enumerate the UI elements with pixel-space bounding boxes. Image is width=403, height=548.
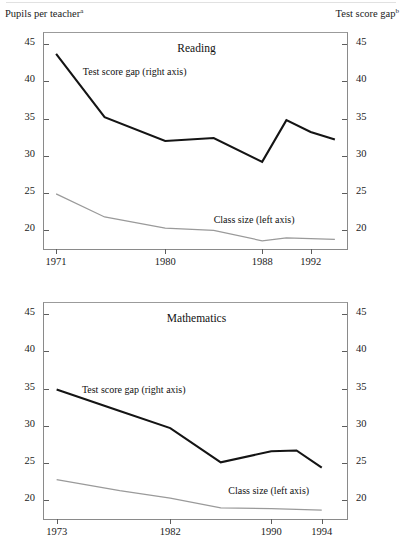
x-axis-tick-label: 1980 xyxy=(155,256,176,267)
figure-page: Pupils per teachera Test score gapb Read… xyxy=(0,0,403,548)
series-label-test-score-gap: Test score gap (right axis) xyxy=(82,384,186,395)
page-top-rule xyxy=(6,2,396,3)
x-axis-tick-label: 1990 xyxy=(261,526,282,537)
y-axis-tick-label: 40 xyxy=(356,73,367,84)
chart-panel-mathematics: Mathematics 4545404035353030252520201973… xyxy=(0,296,403,548)
y-axis-tick-label: 40 xyxy=(25,343,36,354)
series-canvas xyxy=(44,33,347,249)
left-axis-footnote-marker: a xyxy=(80,7,83,15)
x-axis-tick-label: 1973 xyxy=(46,526,67,537)
series-label-test-score-gap: Test score gap (right axis) xyxy=(83,66,187,77)
x-axis-tick-mark xyxy=(170,519,171,524)
y-axis-tick-label: 25 xyxy=(25,455,36,466)
x-axis-tick-mark xyxy=(57,519,58,524)
x-axis-tick-mark xyxy=(322,519,323,524)
plot-area-mathematics: Mathematics 4545404035353030252520201973… xyxy=(43,302,348,520)
y-axis-tick-label: 35 xyxy=(356,111,367,122)
y-axis-tick-label: 20 xyxy=(25,222,36,233)
chart-panel-reading: Reading 45454040353530302525202019711980… xyxy=(0,26,403,278)
y-axis-tick-label: 25 xyxy=(356,455,367,466)
x-axis-tick-mark xyxy=(165,249,166,254)
x-axis-tick-label: 1988 xyxy=(252,256,273,267)
series-label-class-size: Class size (left axis) xyxy=(228,485,309,496)
x-axis-tick-label: 1992 xyxy=(300,256,321,267)
x-axis-tick-mark xyxy=(271,519,272,524)
y-axis-tick-label: 45 xyxy=(356,36,367,47)
y-axis-tick-label: 45 xyxy=(25,306,36,317)
left-axis-caption: Pupils per teachera xyxy=(5,8,83,20)
y-axis-tick-label: 45 xyxy=(25,36,36,47)
x-axis-tick-mark xyxy=(311,249,312,254)
y-axis-tick-label: 40 xyxy=(25,73,36,84)
right-axis-caption-text: Test score gap xyxy=(336,8,396,19)
x-axis-tick-label: 1971 xyxy=(46,256,67,267)
x-axis-tick-label: 1994 xyxy=(311,526,332,537)
y-axis-tick-label: 30 xyxy=(356,418,367,429)
y-axis-tick-label: 30 xyxy=(25,148,36,159)
y-axis-tick-label: 30 xyxy=(356,148,367,159)
x-axis-tick-mark xyxy=(262,249,263,254)
x-axis-tick-label: 1982 xyxy=(160,526,181,537)
series-line-test-score-gap xyxy=(57,389,322,467)
plot-area-reading: Reading 45454040353530302525202019711980… xyxy=(43,32,348,250)
y-axis-tick-label: 25 xyxy=(25,185,36,196)
y-axis-tick-label: 20 xyxy=(25,492,36,503)
right-axis-footnote-marker: b xyxy=(396,7,400,15)
left-axis-caption-text: Pupils per teacher xyxy=(5,8,80,19)
y-axis-tick-label: 30 xyxy=(25,418,36,429)
series-label-class-size: Class size (left axis) xyxy=(214,214,295,225)
y-axis-tick-label: 20 xyxy=(356,222,367,233)
y-axis-tick-label: 35 xyxy=(25,111,36,122)
y-axis-tick-label: 35 xyxy=(25,381,36,392)
y-axis-tick-label: 25 xyxy=(356,185,367,196)
right-axis-caption: Test score gapb xyxy=(336,8,399,20)
y-axis-tick-label: 40 xyxy=(356,343,367,354)
y-axis-tick-label: 45 xyxy=(356,306,367,317)
y-axis-tick-label: 35 xyxy=(356,381,367,392)
y-axis-tick-label: 20 xyxy=(356,492,367,503)
x-axis-tick-mark xyxy=(56,249,57,254)
